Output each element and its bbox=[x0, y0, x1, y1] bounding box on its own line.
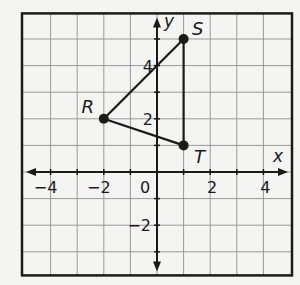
y-tick-label: 4 bbox=[143, 57, 153, 76]
origin-label: 0 bbox=[140, 178, 150, 197]
x-tick-label: 4 bbox=[260, 178, 270, 197]
x-axis-right-arrow-icon bbox=[278, 168, 288, 176]
y-axis-down-arrow-icon bbox=[153, 261, 161, 271]
point-s bbox=[179, 34, 189, 44]
coordinate-plane: −4−22442−20xy RST bbox=[0, 0, 300, 285]
point-label-s: S bbox=[192, 18, 203, 39]
point-label-t: T bbox=[194, 146, 207, 167]
point-label-r: R bbox=[82, 96, 95, 117]
point-t bbox=[179, 140, 189, 150]
x-axis-label: x bbox=[272, 146, 284, 166]
x-tick-label: 2 bbox=[207, 178, 217, 197]
coordinate-plane-figure: −4−22442−20xy RST bbox=[0, 0, 300, 285]
x-axis-left-arrow-icon bbox=[26, 168, 36, 176]
axes bbox=[26, 17, 288, 271]
y-tick-label: −2 bbox=[127, 216, 151, 235]
y-axis-up-arrow-icon bbox=[153, 17, 161, 27]
y-tick-label: 2 bbox=[143, 110, 153, 129]
tick-labels: −4−22442−20xy bbox=[34, 11, 284, 235]
y-axis-label: y bbox=[163, 11, 175, 31]
point-r bbox=[99, 114, 109, 124]
x-tick-label: −2 bbox=[87, 178, 111, 197]
x-tick-label: −4 bbox=[34, 178, 58, 197]
